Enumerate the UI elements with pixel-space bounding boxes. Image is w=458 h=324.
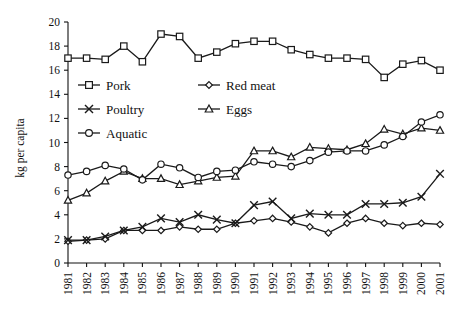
x-tick-label: 2001 xyxy=(434,272,446,295)
data-point-square xyxy=(65,55,71,61)
y-tick-label: 0 xyxy=(54,257,60,269)
data-point-square xyxy=(214,49,220,55)
x-tick-label: 1984 xyxy=(118,272,130,295)
data-point-square xyxy=(121,43,127,49)
y-tick-label: 10 xyxy=(49,137,61,149)
y-tick-label: 14 xyxy=(49,88,61,100)
data-point-square xyxy=(176,33,182,39)
y-tick-label: 18 xyxy=(49,40,61,52)
data-point-square xyxy=(325,55,331,61)
x-tick-label: 1987 xyxy=(174,272,186,295)
data-point-square xyxy=(83,55,89,61)
data-point-circle xyxy=(325,149,331,155)
data-point-circle xyxy=(176,165,182,171)
data-point-square xyxy=(288,47,294,53)
data-point-circle xyxy=(65,172,71,178)
x-tick-label: 1986 xyxy=(155,272,167,295)
data-point-circle xyxy=(139,177,145,183)
data-point-circle xyxy=(232,167,238,173)
legend-label: Poultry xyxy=(106,102,145,117)
legend-label: Aquatic xyxy=(106,126,147,141)
y-tick-label: 16 xyxy=(49,64,61,76)
data-point-circle xyxy=(288,163,294,169)
data-point-square xyxy=(195,55,201,61)
data-point-square xyxy=(86,82,93,89)
y-tick-label: 12 xyxy=(49,112,61,124)
data-point-square xyxy=(381,74,387,80)
data-point-square xyxy=(232,40,238,46)
x-tick-label: 1992 xyxy=(267,272,279,295)
x-tick-label: 1989 xyxy=(211,272,223,295)
data-point-circle xyxy=(381,142,387,148)
x-tick-label: 1994 xyxy=(304,272,316,295)
data-point-circle xyxy=(307,157,313,163)
data-point-circle xyxy=(437,112,443,118)
data-point-circle xyxy=(418,119,424,125)
x-tick-label: 1999 xyxy=(397,272,409,295)
x-tick-label: 1982 xyxy=(81,272,93,295)
data-point-circle xyxy=(251,159,257,165)
x-tick-label: 1988 xyxy=(192,272,204,295)
data-point-circle xyxy=(214,168,220,174)
data-point-circle xyxy=(83,168,89,174)
x-tick-label: 1998 xyxy=(378,272,390,295)
data-point-square xyxy=(362,56,368,62)
x-tick-label: 1981 xyxy=(62,272,74,295)
x-tick-label: 2000 xyxy=(415,272,427,295)
data-point-square xyxy=(400,61,406,67)
x-tick-label: 1996 xyxy=(341,272,353,295)
data-point-circle xyxy=(362,148,368,154)
y-axis-title: kg per capita xyxy=(14,118,27,177)
x-tick-label: 1991 xyxy=(248,272,260,295)
x-tick-label: 1990 xyxy=(229,272,241,295)
y-tick-label: 20 xyxy=(49,16,61,28)
legend-label: Eggs xyxy=(226,102,252,117)
legend-label: Pork xyxy=(106,78,131,93)
y-tick-label: 8 xyxy=(54,161,60,173)
data-point-circle xyxy=(121,166,127,172)
data-point-circle xyxy=(195,174,201,180)
data-point-square xyxy=(437,67,443,73)
data-point-circle xyxy=(158,161,164,167)
data-point-square xyxy=(251,38,257,44)
data-point-circle xyxy=(86,130,93,137)
line-chart: 02468101214161820 1981198219831984198519… xyxy=(0,0,458,324)
data-point-square xyxy=(158,31,164,37)
data-point-square xyxy=(269,38,275,44)
chart-container: 02468101214161820 1981198219831984198519… xyxy=(0,0,458,324)
y-tick-label: 2 xyxy=(54,233,60,245)
data-point-square xyxy=(418,57,424,63)
legend-label: Red meat xyxy=(226,78,276,93)
x-tick-label: 1995 xyxy=(322,272,334,295)
y-tick-label: 6 xyxy=(54,185,60,197)
data-point-circle xyxy=(102,162,108,168)
data-point-circle xyxy=(400,133,406,139)
x-tick-label: 1985 xyxy=(136,272,148,295)
data-point-circle xyxy=(344,148,350,154)
data-point-square xyxy=(102,56,108,62)
data-point-circle xyxy=(269,161,275,167)
data-point-square xyxy=(139,59,145,65)
data-point-square xyxy=(344,55,350,61)
y-tick-label: 4 xyxy=(54,209,60,221)
x-tick-label: 1983 xyxy=(99,272,111,295)
x-tick-label: 1997 xyxy=(360,272,372,295)
x-tick-label: 1993 xyxy=(285,272,297,295)
data-point-square xyxy=(307,51,313,57)
